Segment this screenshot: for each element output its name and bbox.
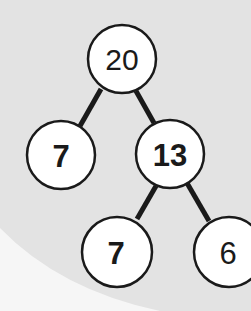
node-right-left-label: 7 — [107, 236, 124, 271]
node-right-label: 13 — [153, 138, 187, 173]
node-right-right: 6 — [194, 217, 251, 287]
node-left: 7 — [27, 121, 95, 189]
node-left-label: 7 — [52, 139, 69, 174]
node-right-left: 7 — [82, 217, 152, 287]
diagram-canvas: 20 7 13 7 6 — [0, 0, 251, 311]
node-root: 20 — [88, 25, 156, 93]
node-right-right-label: 6 — [219, 236, 236, 271]
number-bond-diagram: 20 7 13 7 6 — [0, 0, 251, 311]
node-root-label: 20 — [105, 43, 138, 76]
node-right: 13 — [136, 120, 204, 188]
